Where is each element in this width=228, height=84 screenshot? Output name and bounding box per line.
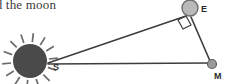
segment-sun-to-earth	[48, 16, 186, 63]
sun-ray	[46, 46, 54, 51]
label-moon: M	[214, 71, 222, 81]
sun-ray	[15, 77, 20, 84]
sun-ray	[40, 37, 45, 45]
sun-ray	[43, 75, 49, 81]
diagram-canvas: S E M	[0, 0, 228, 84]
sun-ray	[27, 80, 28, 84]
moon-icon	[208, 60, 217, 69]
sun-ray	[21, 35, 24, 44]
sun-ray	[6, 71, 14, 76]
sun-ray	[10, 41, 16, 47]
label-sun: S	[53, 62, 59, 72]
sun-ray	[36, 79, 39, 84]
sun-ray	[2, 63, 11, 64]
sun-ray	[32, 33, 33, 42]
earth-icon	[182, 0, 198, 16]
segment-sun-to-moon	[48, 63, 209, 64]
sun-icon	[13, 44, 47, 78]
sun-ray	[49, 58, 58, 59]
sun-ray	[4, 52, 12, 55]
sun-earth-moon-diagram: nd the moon S E M	[0, 0, 228, 84]
segment-earth-to-moon	[191, 17, 210, 61]
label-earth: E	[201, 4, 207, 14]
